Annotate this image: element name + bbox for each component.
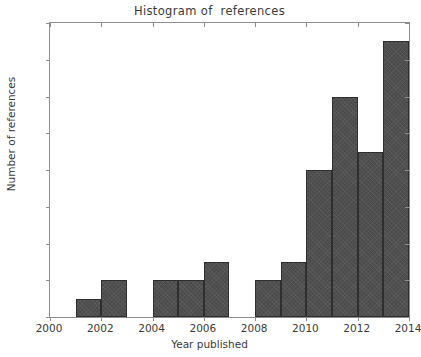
bars-layer — [50, 23, 409, 317]
x-tick-mark-top — [101, 23, 102, 27]
y-tick-mark — [46, 97, 50, 98]
y-tick-mark — [46, 244, 50, 245]
histogram-bar — [332, 97, 358, 318]
x-tick-label: 2006 — [189, 322, 216, 334]
y-tick-mark-right — [405, 97, 409, 98]
y-axis-label: Number of references — [5, 49, 17, 219]
y-tick-mark — [46, 60, 50, 61]
histogram-bar — [358, 152, 384, 317]
histogram-bar — [76, 299, 102, 317]
chart-title: Histogram of references — [0, 4, 419, 18]
x-tick-mark-top — [204, 23, 205, 27]
x-tick-mark — [358, 317, 359, 321]
y-tick-mark-right — [405, 133, 409, 134]
x-tick-mark-top — [153, 23, 154, 27]
plot-area — [49, 22, 410, 318]
x-tick-mark-top — [358, 23, 359, 27]
x-tick-mark-top — [255, 23, 256, 27]
x-tick-label: 2002 — [87, 322, 114, 334]
y-tick-mark-right — [405, 60, 409, 61]
y-tick-mark-right — [405, 280, 409, 281]
x-tick-label: 2004 — [138, 322, 165, 334]
x-tick-mark — [409, 317, 410, 321]
histogram-bar — [204, 262, 230, 317]
x-tick-label: 2000 — [36, 322, 63, 334]
x-axis-label: Year published — [0, 338, 419, 350]
x-tick-mark — [153, 317, 154, 321]
x-tick-mark — [101, 317, 102, 321]
y-tick-mark — [46, 207, 50, 208]
histogram-bar — [255, 280, 281, 317]
x-tick-mark-top — [409, 23, 410, 27]
x-tick-mark — [255, 317, 256, 321]
x-tick-mark-top — [50, 23, 51, 27]
x-tick-mark-top — [306, 23, 307, 27]
y-tick-mark-right — [405, 170, 409, 171]
x-tick-label: 2012 — [343, 322, 370, 334]
histogram-bar — [178, 280, 204, 317]
histogram-bar — [101, 280, 127, 317]
x-tick-label: 2008 — [241, 322, 268, 334]
x-tick-mark — [306, 317, 307, 321]
x-tick-label: 2010 — [292, 322, 319, 334]
x-tick-mark — [50, 317, 51, 321]
histogram-bar — [153, 280, 179, 317]
y-tick-mark — [46, 280, 50, 281]
histogram-bar — [383, 41, 409, 317]
histogram-bar — [306, 170, 332, 317]
x-tick-label: 2014 — [395, 322, 421, 334]
histogram-bar — [281, 262, 307, 317]
y-tick-mark — [46, 170, 50, 171]
y-tick-mark-right — [405, 244, 409, 245]
y-tick-mark — [46, 133, 50, 134]
y-tick-mark-right — [405, 207, 409, 208]
x-tick-mark — [204, 317, 205, 321]
